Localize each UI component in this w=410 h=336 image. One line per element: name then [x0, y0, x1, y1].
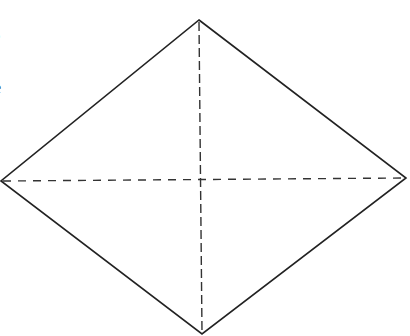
horizontal-diagonal: [3, 178, 404, 181]
vertical-diagonal: [199, 22, 202, 332]
rhombus-diagram: [0, 0, 410, 336]
rhombus-outline: [1, 20, 406, 334]
